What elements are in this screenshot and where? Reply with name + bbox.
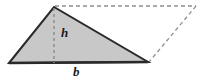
- parallelogram-right-edge-line: [149, 6, 196, 62]
- geometry-figure: h b: [0, 0, 206, 79]
- height-label: h: [61, 25, 68, 40]
- shaded-triangle-shape: [9, 7, 148, 63]
- figure-svg: h b: [0, 0, 206, 79]
- triangle-base-edge-line: [9, 62, 148, 63]
- base-label: b: [73, 64, 80, 79]
